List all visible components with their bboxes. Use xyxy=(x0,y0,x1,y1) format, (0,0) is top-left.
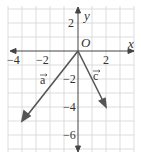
y-axis-arrow-up-icon xyxy=(76,7,81,13)
coordinate-plane: y x O 2 −2 −4 −6 −4 −2 2 a c xyxy=(0,0,141,163)
x-axis xyxy=(10,49,134,54)
vector-c-arrowhead-icon xyxy=(100,99,107,108)
x-axis-label: x xyxy=(127,36,134,51)
y-tick-neg2: −2 xyxy=(63,72,76,86)
x-tick-2: 2 xyxy=(103,53,109,67)
y-tick-neg4: −4 xyxy=(63,100,76,114)
x-tick-neg4: −4 xyxy=(7,53,20,67)
origin-label: O xyxy=(81,35,91,50)
y-axis xyxy=(76,7,81,152)
y-tick-neg6: −6 xyxy=(63,128,76,142)
y-tick-2: 2 xyxy=(68,16,74,30)
x-tick-neg2: −2 xyxy=(36,53,49,67)
y-axis-label: y xyxy=(82,8,90,23)
y-axis-arrow-down-icon xyxy=(76,146,81,152)
